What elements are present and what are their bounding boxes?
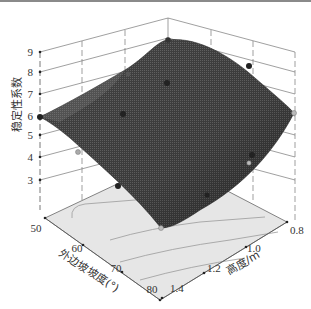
data-point (247, 161, 251, 165)
data-point (292, 111, 297, 116)
data-point (120, 111, 126, 117)
data-point (76, 150, 81, 155)
x-tick-70: 70 (111, 262, 123, 274)
data-point (37, 114, 43, 120)
x-tick-50: 50 (31, 222, 43, 234)
y-tick-0.8: 0.8 (290, 224, 304, 236)
data-point (159, 226, 164, 231)
z-tick-8: 8 (28, 66, 34, 78)
z-axis-title: 稳定性系数 (10, 77, 24, 132)
surface-chart: 9 8 7 6 5 4 3 稳定性系数 50 60 70 80 外边坡坡度(°) (0, 0, 311, 309)
z-axis: 9 8 7 6 5 4 3 稳定性系数 (10, 46, 41, 210)
data-point (164, 80, 170, 86)
data-point (115, 183, 121, 189)
z-tick-6: 6 (28, 110, 34, 122)
z-tick-7: 7 (28, 88, 34, 100)
data-point (126, 72, 131, 77)
z-tick-3: 3 (28, 174, 34, 186)
x-tick-80: 80 (147, 283, 159, 295)
y-tick-1.2: 1.2 (207, 262, 221, 274)
data-point (249, 152, 255, 158)
y-tick-1.4: 1.4 (170, 282, 184, 294)
response-surface (40, 40, 294, 228)
data-point (205, 193, 210, 198)
z-tick-5: 5 (28, 129, 34, 141)
z-tick-4: 4 (28, 151, 34, 163)
data-point (246, 63, 252, 69)
z-tick-9: 9 (28, 46, 34, 58)
data-point (165, 37, 171, 43)
